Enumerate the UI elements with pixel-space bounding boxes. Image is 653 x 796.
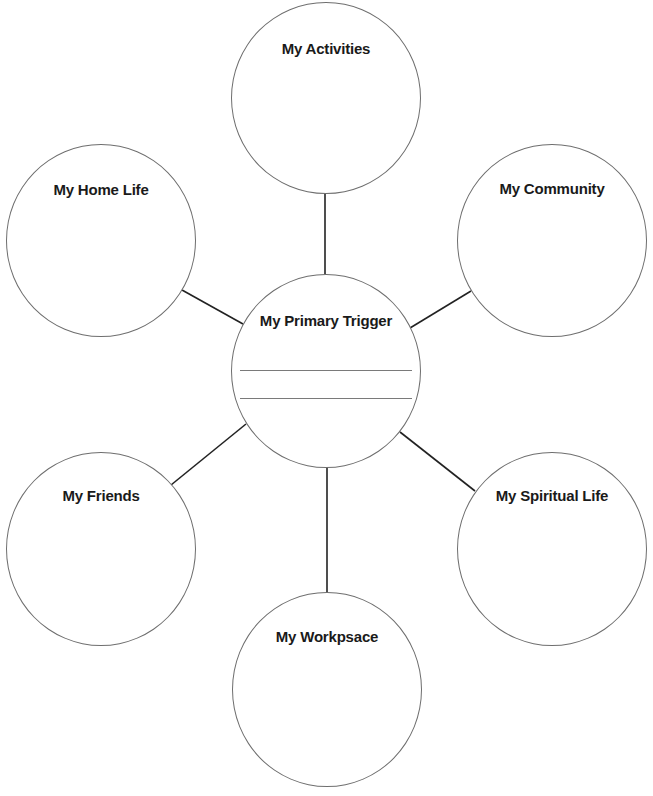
connector-spiritual-life (400, 432, 475, 491)
node-friends: My Friends (6, 452, 196, 646)
node-label: My Activities (232, 40, 420, 57)
node-activities: My Activities (231, 2, 421, 194)
node-home-life: My Home Life (6, 144, 196, 337)
connector-friends (171, 424, 246, 485)
blank-line-1[interactable] (240, 370, 412, 371)
node-community: My Community (457, 144, 647, 337)
node-label: My Community (458, 180, 646, 197)
node-primary-trigger: My Primary Trigger (231, 274, 421, 468)
center-label: My Primary Trigger (232, 312, 420, 329)
node-spiritual-life: My Spiritual Life (457, 452, 647, 646)
node-workspace: My Workpsace (232, 592, 422, 787)
node-label: My Friends (7, 487, 195, 504)
blank-line-2[interactable] (240, 398, 412, 399)
node-label: My Home Life (7, 181, 195, 198)
node-label: My Workpsace (233, 628, 421, 645)
node-label: My Spiritual Life (458, 487, 646, 504)
